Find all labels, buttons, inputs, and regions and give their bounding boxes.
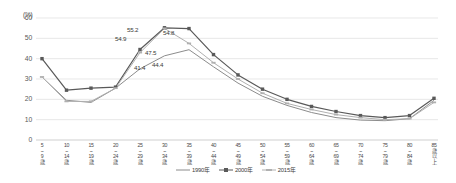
legend-item-2015[interactable]: 2015年 — [262, 165, 296, 174]
series-marker — [64, 100, 68, 102]
series-marker — [261, 87, 264, 90]
series-marker — [310, 105, 313, 108]
legend-label: 2015年 — [278, 165, 296, 174]
series-marker — [89, 100, 93, 102]
plot-area — [0, 0, 456, 183]
series-marker — [187, 27, 190, 30]
data-point-label: 41.4 — [134, 64, 145, 71]
series-marker — [432, 101, 436, 103]
series-marker — [408, 114, 411, 117]
series-marker — [358, 117, 362, 119]
line-chart: (%) 6050403020100 5 ~ 9 歳10 ~ 14 歳15 ~ 1… — [0, 0, 456, 183]
series-line — [42, 28, 434, 118]
series-marker — [187, 43, 191, 45]
series-marker — [334, 114, 338, 116]
legend-label: 2000年 — [235, 165, 253, 174]
series-marker — [309, 109, 313, 111]
series-marker — [285, 103, 289, 105]
series-marker — [65, 88, 68, 91]
data-point-label: 47.5 — [145, 49, 156, 56]
series-marker — [212, 53, 215, 56]
legend-dash-marker-icon — [262, 167, 276, 173]
series-marker — [138, 52, 142, 54]
series-marker — [236, 78, 240, 80]
data-point-label: 54.9 — [115, 35, 126, 42]
legend-line-icon — [176, 167, 190, 173]
data-point-label: 55.2 — [127, 26, 138, 33]
series-marker — [89, 86, 92, 89]
series-marker — [40, 57, 43, 60]
legend-label: 1990年 — [192, 165, 210, 174]
series-marker — [113, 87, 117, 89]
series-marker — [407, 118, 411, 120]
legend-square-marker-icon — [219, 167, 233, 173]
chart-legend: 1990年 2000年 2015年 — [176, 165, 296, 174]
series-marker — [432, 97, 435, 100]
series-marker — [236, 73, 239, 76]
series-line — [42, 50, 434, 121]
data-point-label: 54.8 — [163, 29, 174, 36]
series-marker — [211, 62, 215, 64]
series-marker — [383, 119, 387, 121]
series-marker — [260, 92, 264, 94]
series-marker — [285, 98, 288, 101]
series-markers — [40, 26, 436, 121]
series-marker — [334, 110, 337, 113]
legend-item-1990[interactable]: 1990年 — [176, 165, 210, 174]
legend-item-2000[interactable]: 2000年 — [219, 165, 253, 174]
series-marker — [40, 76, 44, 78]
data-point-label: 44.4 — [152, 61, 163, 68]
series-marker — [138, 48, 141, 51]
